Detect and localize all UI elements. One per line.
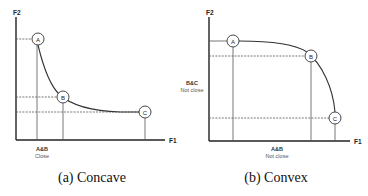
svg-text:A: A <box>36 37 40 43</box>
pareto-front-figure: F2 F1 A B C A&B Close (a) Concave <box>0 0 368 196</box>
x-axis-label: F1 <box>354 138 362 145</box>
svg-text:C: C <box>143 110 148 116</box>
point-a: A <box>227 35 239 47</box>
point-b: B <box>57 91 69 103</box>
svg-text:A: A <box>231 39 235 45</box>
svg-text:B: B <box>61 95 65 101</box>
convex-front-curve <box>239 41 335 112</box>
annotation-bc-line1: B&C <box>186 80 198 86</box>
annotation-ab-line2: Close <box>35 153 49 159</box>
point-c: C <box>329 112 341 124</box>
svg-text:C: C <box>333 116 338 122</box>
svg-text:B: B <box>309 54 313 60</box>
annotation-ab-line2: Not close <box>266 153 289 159</box>
y-axis-label: F2 <box>206 9 214 16</box>
annotation-bc-line2: Not close <box>181 87 204 93</box>
point-b: B <box>305 50 317 62</box>
point-c: C <box>139 106 151 118</box>
y-axis-label: F2 <box>13 9 21 16</box>
x-axis-label: F1 <box>169 137 177 144</box>
annotation-ab-line1: A&B <box>36 146 48 152</box>
annotation-ab-line1: A&B <box>271 146 283 152</box>
point-a: A <box>32 33 44 45</box>
caption-concave: (a) Concave <box>58 170 126 186</box>
caption-convex: (b) Convex <box>244 170 307 186</box>
concave-front-curve <box>38 45 139 112</box>
convex-diagram: F2 F1 A B C B&C Not close A&B Not close … <box>181 9 362 186</box>
concave-diagram: F2 F1 A B C A&B Close (a) Concave <box>13 9 177 186</box>
